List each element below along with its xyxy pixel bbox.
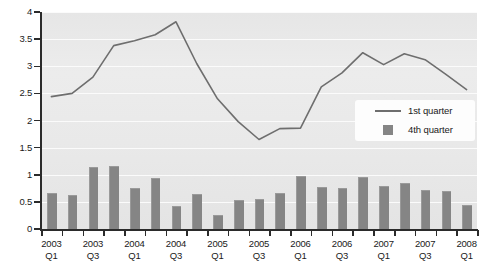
y-axis-tick xyxy=(34,228,40,230)
y-axis-tick-label: 2.5 xyxy=(0,88,32,98)
x-axis xyxy=(40,229,478,231)
x-axis-tick-label: 2007Q3 xyxy=(405,238,445,261)
x-axis-tick-label: 2007Q1 xyxy=(364,238,404,261)
x-label-quarter: Q1 xyxy=(114,250,154,262)
y-axis-tick-label: 0 xyxy=(0,224,32,234)
x-label-quarter: Q3 xyxy=(239,250,279,262)
x-axis-tick-label: 2003Q1 xyxy=(31,238,71,261)
y-axis-tick xyxy=(34,147,40,149)
x-axis-tick xyxy=(352,230,354,236)
x-axis-tick xyxy=(166,230,168,236)
x-axis-tick xyxy=(145,230,147,236)
x-axis-tick xyxy=(228,230,230,236)
legend-item-4th-quarter[interactable]: 4th quarter xyxy=(355,121,475,139)
x-label-year: 2004 xyxy=(114,238,154,250)
x-axis-tick xyxy=(477,230,479,236)
y-axis-tick xyxy=(34,93,40,95)
y-axis-tick-label: 3 xyxy=(0,61,32,71)
x-axis-tick xyxy=(83,230,85,236)
x-label-year: 2007 xyxy=(364,238,404,250)
y-axis-tick-label: 1 xyxy=(0,170,32,180)
y-axis-tick-label: 1.5 xyxy=(0,143,32,153)
x-axis-tick-label: 2006Q3 xyxy=(322,238,362,261)
x-axis-tick xyxy=(124,230,126,236)
y-axis-tick-label: 2 xyxy=(0,116,32,126)
y-axis-tick-label: 3.5 xyxy=(0,34,32,44)
chart-legend: 1st quarter 4th quarter xyxy=(355,100,475,141)
x-axis-tick-label: 2006Q1 xyxy=(281,238,321,261)
x-label-year: 2006 xyxy=(281,238,321,250)
y-axis-tick xyxy=(34,38,40,40)
legend-item-1st-quarter[interactable]: 1st quarter xyxy=(355,102,475,120)
y-axis-tick xyxy=(34,120,40,122)
x-label-year: 2007 xyxy=(405,238,445,250)
chart-container: 00.511.522.533.54 2003Q12003Q32004Q12004… xyxy=(0,0,482,268)
x-axis-tick xyxy=(332,230,334,236)
x-axis-tick-label: 2004Q1 xyxy=(114,238,154,261)
x-axis-tick-label: 2005Q1 xyxy=(198,238,238,261)
x-axis-tick-label: 2003Q3 xyxy=(73,238,113,261)
x-axis-tick xyxy=(456,230,458,236)
x-axis-tick xyxy=(41,230,43,236)
x-label-quarter: Q1 xyxy=(31,250,71,262)
x-axis-tick xyxy=(373,230,375,236)
x-axis-tick xyxy=(415,230,417,236)
x-label-year: 2004 xyxy=(156,238,196,250)
x-label-quarter: Q3 xyxy=(156,250,196,262)
x-axis-tick-label: 2004Q3 xyxy=(156,238,196,261)
x-axis-tick-label: 2008Q1 xyxy=(447,238,482,261)
x-label-year: 2006 xyxy=(322,238,362,250)
legend-square-swatch-icon xyxy=(383,125,393,135)
x-axis-tick-label: 2005Q3 xyxy=(239,238,279,261)
x-label-quarter: Q1 xyxy=(364,250,404,262)
x-axis-tick xyxy=(436,230,438,236)
x-label-year: 2003 xyxy=(73,238,113,250)
legend-label-1st-quarter: 1st quarter xyxy=(408,105,452,116)
x-label-quarter: Q3 xyxy=(73,250,113,262)
x-label-year: 2003 xyxy=(31,238,71,250)
x-axis-tick xyxy=(269,230,271,236)
y-axis-tick xyxy=(34,174,40,176)
x-label-quarter: Q3 xyxy=(405,250,445,262)
x-axis-tick xyxy=(311,230,313,236)
legend-line-swatch-icon xyxy=(375,110,401,112)
x-label-year: 2005 xyxy=(239,238,279,250)
x-label-quarter: Q1 xyxy=(447,250,482,262)
y-axis xyxy=(40,12,42,230)
x-label-quarter: Q1 xyxy=(198,250,238,262)
y-axis-tick-label: 0.5 xyxy=(0,197,32,207)
x-axis-tick xyxy=(249,230,251,236)
x-axis-tick xyxy=(290,230,292,236)
y-axis-tick xyxy=(34,66,40,68)
y-axis-tick-label: 4 xyxy=(0,7,32,17)
legend-label-4th-quarter: 4th quarter xyxy=(408,124,453,135)
x-label-year: 2005 xyxy=(198,238,238,250)
x-axis-tick xyxy=(103,230,105,236)
y-axis-tick xyxy=(34,11,40,13)
x-axis-tick xyxy=(207,230,209,236)
x-axis-tick xyxy=(186,230,188,236)
x-label-year: 2008 xyxy=(447,238,482,250)
x-label-quarter: Q3 xyxy=(322,250,362,262)
x-axis-tick xyxy=(62,230,64,236)
x-label-quarter: Q1 xyxy=(281,250,321,262)
x-axis-tick xyxy=(394,230,396,236)
y-axis-tick xyxy=(34,201,40,203)
